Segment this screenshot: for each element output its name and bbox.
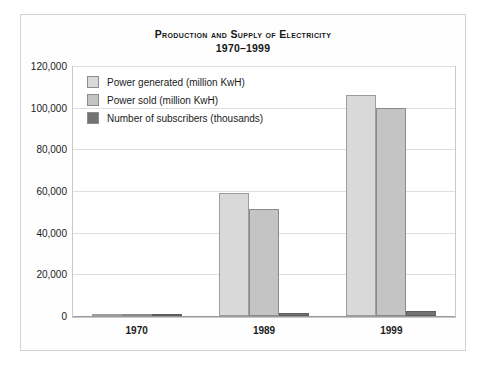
legend-swatch-icon [87,112,99,124]
y-axis-tick-label: 40,000 [5,227,67,238]
x-axis-tick-label: 1970 [92,325,182,336]
y-axis-tick-label: 100,000 [5,102,67,113]
y-axis-tick-label: 120,000 [5,61,67,72]
x-axis-tick-label: 1989 [219,325,309,336]
bar [279,313,309,316]
chart-title: Production and Supply of Electricity [21,27,465,41]
chart-figure: Production and Supply of Electricity 197… [20,14,466,351]
bar [92,314,122,316]
legend-item: Power generated (million KwH) [87,76,263,88]
bar [122,314,152,316]
plot-frame: 020,00040,00060,00080,000100,000120,0001… [72,66,456,318]
legend-item-label: Power sold (million KwH) [107,95,218,106]
chart-legend: Power generated (million KwH)Power sold … [87,76,263,124]
legend-item: Number of subscribers (thousands) [87,112,263,124]
y-axis-tick-label: 0 [5,311,67,322]
legend-item-label: Number of subscribers (thousands) [107,113,263,124]
y-axis-tick-label: 80,000 [5,144,67,155]
legend-swatch-icon [87,76,99,88]
x-axis-tick-label: 1999 [346,325,436,336]
bar [406,311,436,316]
bar [249,209,279,316]
y-axis-tick-label: 60,000 [5,186,67,197]
bar [152,314,182,316]
legend-item: Power sold (million KwH) [87,94,263,106]
bar [219,193,249,316]
axis-baseline: 0 [73,316,455,317]
bar-group: 1999 [346,66,436,316]
legend-swatch-icon [87,94,99,106]
chart-title-block: Production and Supply of Electricity 197… [21,27,465,55]
legend-item-label: Power generated (million KwH) [107,77,245,88]
bar [346,95,376,316]
chart-subtitle: 1970–1999 [21,41,465,55]
bar [376,108,406,316]
y-axis-tick-label: 20,000 [5,269,67,280]
